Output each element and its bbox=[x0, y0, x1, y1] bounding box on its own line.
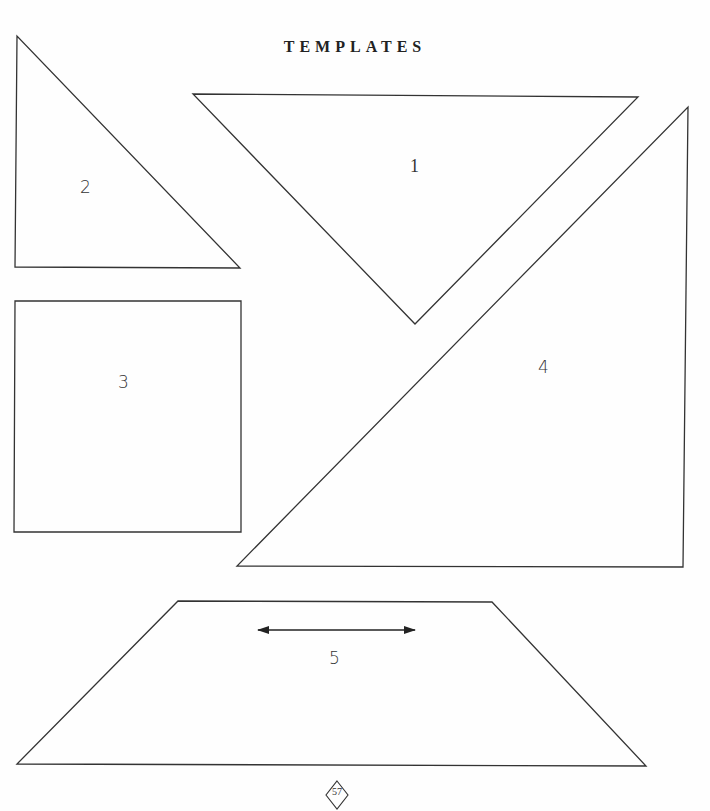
page-number: 57 bbox=[324, 786, 350, 797]
template-4-label: 4 bbox=[538, 357, 549, 377]
template-page: Templates 1 2 3 4 5 57 bbox=[0, 0, 710, 811]
template-3-square bbox=[14, 301, 241, 532]
template-4-triangle bbox=[237, 107, 688, 567]
template-3-label: 3 bbox=[118, 372, 129, 392]
page-number-badge: 57 bbox=[324, 780, 350, 806]
template-1-label: 1 bbox=[410, 156, 419, 177]
template-2-label: 2 bbox=[80, 177, 91, 197]
template-5-label: 5 bbox=[329, 648, 340, 668]
template-2-triangle bbox=[15, 36, 240, 268]
template-1-triangle bbox=[193, 94, 638, 324]
template-shapes bbox=[0, 0, 710, 811]
template-5-trapezoid bbox=[17, 601, 646, 766]
